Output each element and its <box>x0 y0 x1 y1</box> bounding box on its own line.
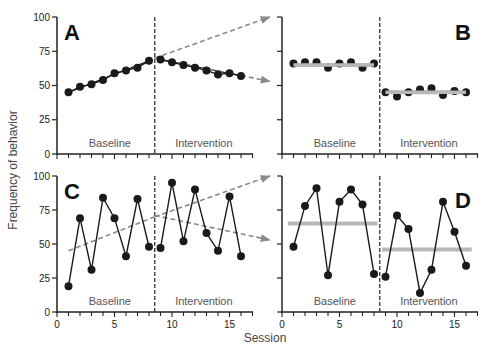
x-tick-label: 5 <box>112 319 118 330</box>
data-point <box>145 57 153 65</box>
panel-b: BaselineInterventionB <box>277 17 478 159</box>
data-point <box>88 266 96 274</box>
y-tick-label: 100 <box>33 171 50 182</box>
data-point <box>226 69 234 77</box>
data-point <box>451 228 459 236</box>
data-point <box>99 194 107 202</box>
y-tick-label: 0 <box>44 149 50 160</box>
panel-letter: A <box>64 20 80 45</box>
data-point <box>191 64 199 72</box>
data-point <box>214 71 222 79</box>
data-point <box>301 202 309 210</box>
data-point <box>168 58 176 66</box>
data-point <box>76 83 84 91</box>
trend-arrow <box>155 17 270 58</box>
data-point <box>347 186 355 194</box>
data-point <box>324 271 332 279</box>
data-point <box>336 198 344 206</box>
panel-letter: B <box>455 20 471 45</box>
x-tick-label: 15 <box>449 319 461 330</box>
panel-a: 0255075100BaselineInterventionA <box>33 12 269 160</box>
trend-arrow <box>155 215 270 239</box>
data-point <box>145 243 153 251</box>
y-tick-label: 25 <box>39 273 51 284</box>
y-tick-label: 75 <box>39 46 51 57</box>
data-point <box>416 289 424 297</box>
x-tick-label: 0 <box>54 319 60 330</box>
data-point <box>313 184 321 192</box>
data-point <box>382 273 390 281</box>
panel-letter: C <box>64 179 80 204</box>
data-point <box>226 192 234 200</box>
data-point <box>111 69 119 77</box>
phase-label-intervention: Intervention <box>400 295 457 307</box>
x-tick-label: 0 <box>279 319 285 330</box>
phase-label-baseline: Baseline <box>89 137 131 149</box>
phase-label-baseline: Baseline <box>314 295 356 307</box>
phase-label-baseline: Baseline <box>314 137 356 149</box>
phase-label-intervention: Intervention <box>175 295 232 307</box>
y-tick-label: 25 <box>39 114 51 125</box>
data-point <box>405 225 413 233</box>
data-point <box>462 262 470 270</box>
data-point <box>237 252 245 260</box>
data-point <box>180 237 188 245</box>
x-tick-label: 10 <box>166 319 178 330</box>
data-point <box>203 229 211 237</box>
data-point <box>134 64 142 72</box>
y-tick-label: 0 <box>44 307 50 318</box>
data-point <box>65 88 73 96</box>
data-point <box>393 211 401 219</box>
data-point <box>180 61 188 69</box>
data-point <box>99 76 107 84</box>
y-tick-label: 50 <box>39 239 51 250</box>
data-point <box>191 186 199 194</box>
data-point <box>168 179 176 187</box>
y-axis-title: Frequency of behavior <box>6 110 20 229</box>
y-tick-label: 75 <box>39 205 51 216</box>
data-point <box>203 66 211 74</box>
x-tick-label: 10 <box>391 319 403 330</box>
data-point <box>359 201 367 209</box>
data-line-baseline <box>69 198 150 286</box>
data-point <box>370 270 378 278</box>
phase-label-baseline: Baseline <box>89 295 131 307</box>
data-point <box>88 80 96 88</box>
x-tick-label: 5 <box>337 319 343 330</box>
data-point <box>428 266 436 274</box>
data-point <box>157 244 165 252</box>
phase-label-intervention: Intervention <box>175 137 232 149</box>
data-point <box>122 252 130 260</box>
data-point <box>134 195 142 203</box>
y-tick-label: 50 <box>39 80 51 91</box>
data-point <box>157 55 165 63</box>
panel-letter: D <box>455 188 471 213</box>
data-point <box>439 198 447 206</box>
panel-c: 0255075100051015BaselineInterventionC <box>33 171 269 331</box>
x-axis-title: Session <box>244 331 287 345</box>
data-point <box>237 72 245 80</box>
figure: 0255075100BaselineInterventionA Baseline… <box>0 0 491 355</box>
data-point <box>122 66 130 74</box>
data-point <box>76 214 84 222</box>
data-point <box>290 243 298 251</box>
data-point <box>65 282 73 290</box>
data-point <box>214 247 222 255</box>
x-tick-label: 15 <box>224 319 236 330</box>
phase-label-intervention: Intervention <box>400 137 457 149</box>
y-tick-label: 100 <box>33 12 50 23</box>
panel-d: 051015BaselineInterventionD <box>277 176 478 330</box>
data-point <box>111 214 119 222</box>
